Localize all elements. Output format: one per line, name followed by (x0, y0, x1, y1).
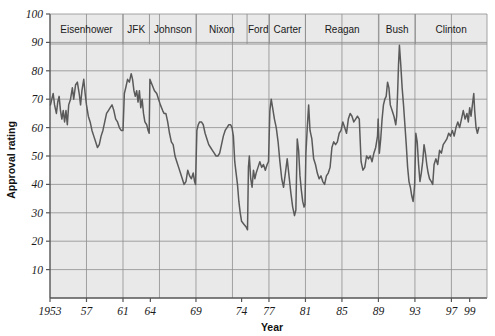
y-tick-label: 40 (32, 178, 44, 190)
x-tick-label: 1953 (39, 305, 62, 317)
president-band-label: Bush (386, 24, 409, 35)
x-tick-label: 85 (336, 305, 348, 317)
y-tick-label: 50 (32, 150, 44, 162)
x-tick-label: 93 (409, 305, 421, 317)
x-tick-label: 64 (145, 305, 157, 317)
x-tick-label: 57 (81, 305, 94, 317)
y-axis-label: Approval rating (5, 121, 17, 199)
chart-canvas: EisenhowerJFKJohnsonNixonFordCarterReaga… (0, 0, 495, 336)
x-tick-label: 69 (190, 305, 202, 317)
president-band-label: Ford (248, 24, 269, 35)
president-band-label: Johnson (154, 24, 192, 35)
y-axis-ticks: 102030405060708090100 (26, 8, 50, 276)
president-band-label: Reagan (325, 24, 360, 35)
president-band-label: Nixon (209, 24, 235, 35)
y-tick-label: 60 (32, 122, 44, 134)
president-band-label: JFK (127, 24, 145, 35)
x-axis-label: Year (261, 321, 283, 333)
y-tick-label: 10 (32, 264, 44, 276)
y-tick-label: 70 (32, 93, 44, 105)
president-band-label: Carter (274, 24, 302, 35)
x-tick-label: 89 (373, 305, 385, 317)
x-tick-label: 61 (117, 305, 129, 317)
x-axis-ticks: 1953576164697477818589939799 (39, 298, 476, 317)
x-tick-label: 99 (464, 305, 476, 317)
y-tick-label: 30 (31, 207, 44, 219)
x-tick-label: 77 (263, 305, 276, 317)
y-tick-label: 80 (32, 65, 44, 77)
x-tick-label: 81 (300, 305, 312, 317)
y-tick-label: 100 (26, 8, 44, 20)
y-tick-label: 20 (32, 235, 44, 247)
president-band-label: Clinton (436, 24, 467, 35)
president-band-label: Eisenhower (60, 24, 113, 35)
x-tick-label: 97 (446, 305, 459, 317)
y-tick-label: 90 (32, 36, 44, 48)
x-tick-label: 74 (236, 305, 248, 317)
approval-rating-chart: EisenhowerJFKJohnsonNixonFordCarterReaga… (0, 0, 495, 336)
